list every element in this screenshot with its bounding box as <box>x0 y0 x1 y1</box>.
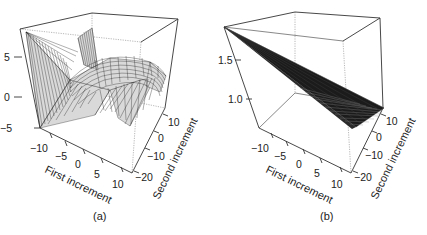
z-tick-label: 0 <box>4 91 10 103</box>
panel-b-surface <box>224 27 384 129</box>
x-tick-label: −10 <box>30 142 48 154</box>
x-tick-label: 5 <box>94 168 100 180</box>
z-tick-label: −5 <box>0 122 12 134</box>
x-tick-label: 10 <box>112 178 124 190</box>
x-tick-label: 0 <box>296 158 302 170</box>
y-tick-label: −10 <box>365 149 383 161</box>
x-tick-label: −5 <box>274 150 286 162</box>
y-tick-label: −20 <box>135 171 153 183</box>
x-tick-label: −10 <box>251 142 269 154</box>
x-tick-label: −5 <box>55 150 67 162</box>
panel-b: 1.5 1.0 −10 −5 0 5 10 First increment 10… <box>218 12 418 222</box>
panel-a: 5 0 −5 −10 −5 0 5 10 First increment 10 … <box>0 13 200 222</box>
x-tick-label: 5 <box>314 167 320 179</box>
z-tick-label: 1.5 <box>218 54 233 66</box>
panel-b-back-edges <box>224 12 383 173</box>
panel-a-y-axis: 10 0 −10 −20 Second increment <box>134 114 200 201</box>
z-tick-label: 5 <box>4 51 10 63</box>
z-tick-label: 1.0 <box>228 93 243 105</box>
y-tick-label: 0 <box>376 131 382 143</box>
panel-a-surface <box>26 28 166 128</box>
y-tick-label: 10 <box>168 116 180 128</box>
panel-b-x-axis: −10 −5 0 5 10 First increment <box>251 133 343 206</box>
y-tick-label: 10 <box>386 115 398 127</box>
y-tick-label: −10 <box>147 150 165 162</box>
panel-b-y-axis: 10 0 −10 −20 Second increment <box>353 114 418 201</box>
y-tick-label: −20 <box>354 171 372 183</box>
panel-a-x-axis: −10 −5 0 5 10 First increment <box>30 133 124 206</box>
panel-label-b: (b) <box>320 210 333 222</box>
y-tick-label: 0 <box>158 132 164 144</box>
panel-b-z-axis: 1.5 1.0 <box>218 54 252 105</box>
x-tick-label: 0 <box>75 158 81 170</box>
figure: 5 0 −5 −10 −5 0 5 10 First increment 10 … <box>0 0 427 235</box>
panel-label-a: (a) <box>93 210 106 222</box>
x-tick-label: 10 <box>331 178 343 190</box>
